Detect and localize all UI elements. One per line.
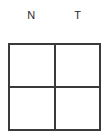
- grid-cell-row2-col-n[interactable]: [10, 87, 55, 129]
- column-header-row: N T: [8, 5, 101, 25]
- grid-cell-row2-col-t[interactable]: [55, 87, 100, 129]
- column-header-n: N: [8, 5, 55, 25]
- grid-table: [8, 43, 101, 131]
- figure-canvas: N T: [0, 0, 112, 139]
- grid-cell-row1-col-t[interactable]: [55, 45, 100, 87]
- grid-cell-value: [10, 45, 54, 86]
- grid-cell-row1-col-n[interactable]: [10, 45, 55, 87]
- grid-cell-value: [10, 88, 54, 129]
- grid-cell-value: [56, 88, 100, 129]
- column-header-t: T: [55, 5, 102, 25]
- grid-cell-value: [56, 45, 100, 86]
